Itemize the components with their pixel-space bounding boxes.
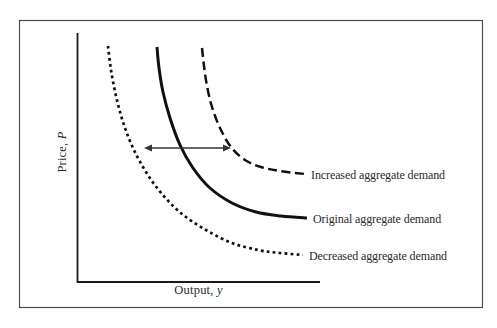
curve-label-dotted: Decreased aggregate demand [309, 248, 447, 263]
curve-solid [157, 47, 307, 218]
y-axis-variable: P [55, 131, 69, 139]
x-axis-variable: y [217, 283, 223, 297]
demand-curves [108, 46, 307, 255]
figure-frame [20, 21, 483, 308]
axes [78, 33, 321, 282]
x-axis-label: Output, y [77, 283, 320, 298]
shift-arrow-left-head-icon [144, 144, 152, 151]
y-axis-label: Price, P [55, 131, 70, 172]
curve-label-dashed: Increased aggregate demand [311, 167, 445, 182]
plot-svg [0, 0, 497, 328]
y-axis-label-text: Price, [55, 143, 69, 173]
curve-dashed [202, 48, 305, 174]
figure: Price, P Output, y Increased aggregate d… [0, 0, 497, 328]
curve-label-solid: Original aggregate demand [313, 211, 441, 226]
x-axis-label-text: Output, [174, 283, 213, 297]
shift-arrow [144, 144, 231, 151]
